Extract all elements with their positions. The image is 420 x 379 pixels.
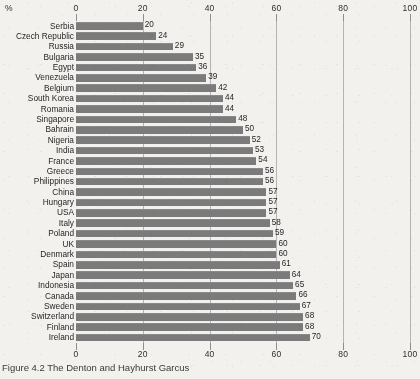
bar bbox=[76, 292, 296, 300]
plot-area: Serbia20Czech Republic24Russia29Bulgaria… bbox=[0, 21, 420, 343]
top-axis-tick-60: 60 bbox=[271, 3, 281, 13]
category-label: USA bbox=[0, 207, 74, 217]
bar-value-label: 67 bbox=[302, 301, 311, 311]
bar-row: Belgium42 bbox=[0, 83, 420, 93]
bar-row: Switzerland68 bbox=[0, 312, 420, 322]
top-tickmark-0 bbox=[76, 14, 77, 21]
bar bbox=[76, 261, 280, 269]
bar-row: Nigeria52 bbox=[0, 135, 420, 145]
bar-value-label: 66 bbox=[298, 290, 307, 300]
category-label: Switzerland bbox=[0, 311, 74, 321]
bottom-axis-tick-40: 40 bbox=[205, 349, 215, 359]
bar-row: Spain61 bbox=[0, 260, 420, 270]
bar-rows: Serbia20Czech Republic24Russia29Bulgaria… bbox=[0, 21, 420, 343]
bar-row: Singapore48 bbox=[0, 114, 420, 124]
bar-value-label: 52 bbox=[252, 135, 261, 145]
bar bbox=[76, 53, 193, 61]
bar-row: Ireland70 bbox=[0, 333, 420, 343]
bar bbox=[76, 84, 216, 92]
bar-row: China57 bbox=[0, 187, 420, 197]
top-tickmark-100 bbox=[410, 14, 411, 21]
bar bbox=[76, 95, 223, 103]
bar-row: Poland59 bbox=[0, 229, 420, 239]
bar-value-label: 57 bbox=[268, 207, 277, 217]
bar-row: Venezuela39 bbox=[0, 73, 420, 83]
bar bbox=[76, 271, 290, 279]
bar-value-label: 20 bbox=[145, 20, 154, 30]
top-tickmark-20 bbox=[143, 14, 144, 21]
category-label: Egypt bbox=[0, 62, 74, 72]
bar-row: Serbia20 bbox=[0, 21, 420, 31]
figure-caption: Figure 4.2 The Denton and Hayhurst Garcu… bbox=[2, 362, 420, 374]
bar-row: Russia29 bbox=[0, 42, 420, 52]
bar-row: Czech Republic24 bbox=[0, 31, 420, 41]
category-label: Indonesia bbox=[0, 280, 74, 290]
bar bbox=[76, 251, 276, 259]
bar-value-label: 24 bbox=[158, 31, 167, 41]
category-label: Canada bbox=[0, 291, 74, 301]
category-label: Singapore bbox=[0, 114, 74, 124]
bottom-axis-tick-20: 20 bbox=[138, 349, 148, 359]
top-axis-tick-0: 0 bbox=[74, 3, 79, 13]
bar-value-label: 68 bbox=[305, 311, 314, 321]
top-tickmark-80 bbox=[343, 14, 344, 21]
bar-value-label: 57 bbox=[268, 187, 277, 197]
bar-value-label: 42 bbox=[218, 83, 227, 93]
bar-row: Canada66 bbox=[0, 291, 420, 301]
bar-row: USA57 bbox=[0, 208, 420, 218]
bar bbox=[76, 240, 276, 248]
category-label: Poland bbox=[0, 228, 74, 238]
category-label: Bulgaria bbox=[0, 52, 74, 62]
bar bbox=[76, 105, 223, 113]
bar-value-label: 50 bbox=[245, 124, 254, 134]
top-axis-tick-20: 20 bbox=[138, 3, 148, 13]
bar-value-label: 60 bbox=[278, 249, 287, 259]
category-label: Ireland bbox=[0, 332, 74, 342]
bar-row: Italy58 bbox=[0, 218, 420, 228]
bar-row: Sweden67 bbox=[0, 301, 420, 311]
bar bbox=[76, 303, 300, 311]
category-label: Belgium bbox=[0, 83, 74, 93]
top-tickmark-60 bbox=[276, 14, 277, 21]
bar-value-label: 48 bbox=[238, 114, 247, 124]
bar-value-label: 35 bbox=[195, 52, 204, 62]
category-label: Philippines bbox=[0, 176, 74, 186]
category-label: Serbia bbox=[0, 21, 74, 31]
category-label: Bahrain bbox=[0, 124, 74, 134]
bar-row: UK60 bbox=[0, 239, 420, 249]
bar-row: Greece56 bbox=[0, 166, 420, 176]
category-label: India bbox=[0, 145, 74, 155]
bar-value-label: 29 bbox=[175, 41, 184, 51]
bottom-axis-tick-60: 60 bbox=[271, 349, 281, 359]
bottom-axis-tick-labels: 020406080100 bbox=[0, 349, 420, 363]
bar-row: Bahrain50 bbox=[0, 125, 420, 135]
category-label: Greece bbox=[0, 166, 74, 176]
bottom-axis-tick-0: 0 bbox=[74, 349, 79, 359]
category-label: Russia bbox=[0, 41, 74, 51]
top-tickmark-40 bbox=[210, 14, 211, 21]
bar bbox=[76, 313, 303, 321]
bar-row: Finland68 bbox=[0, 322, 420, 332]
bar-value-label: 70 bbox=[312, 332, 321, 342]
category-label: Finland bbox=[0, 322, 74, 332]
category-label: UK bbox=[0, 239, 74, 249]
bar-chart-figure: % 020406080100 Serbia20Czech Republic24R… bbox=[0, 0, 420, 379]
category-label: Japan bbox=[0, 270, 74, 280]
category-label: Spain bbox=[0, 259, 74, 269]
bar-value-label: 61 bbox=[282, 259, 291, 269]
bar-value-label: 53 bbox=[255, 145, 264, 155]
category-label: Czech Republic bbox=[0, 31, 74, 41]
bar bbox=[76, 147, 253, 155]
bar bbox=[76, 219, 270, 227]
top-axis-tick-80: 80 bbox=[338, 3, 348, 13]
category-label: Nigeria bbox=[0, 135, 74, 145]
category-label: Denmark bbox=[0, 249, 74, 259]
category-label: China bbox=[0, 187, 74, 197]
bar-value-label: 56 bbox=[265, 176, 274, 186]
bar bbox=[76, 32, 156, 40]
top-axis-tick-100: 100 bbox=[403, 3, 418, 13]
bar bbox=[76, 188, 266, 196]
bar bbox=[76, 126, 243, 134]
bar-row: Indonesia65 bbox=[0, 281, 420, 291]
category-label: Romania bbox=[0, 104, 74, 114]
